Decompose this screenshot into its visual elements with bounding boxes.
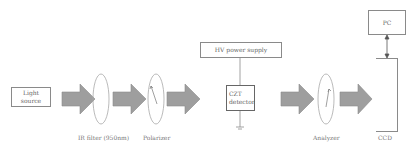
ccd-label: CCD (378, 134, 392, 141)
light-source-label-1: Light (23, 89, 39, 97)
polarizer-axis-icon (151, 86, 157, 104)
analyzer-axis-icon (326, 89, 329, 107)
czt-detector-box: CZT detector (226, 85, 255, 111)
analyzer-lens-icon (318, 74, 334, 124)
czt-detector-label-1: CZT (229, 90, 242, 98)
pc-box: PC (368, 10, 406, 35)
polarizer-label: Polarizer (143, 134, 170, 141)
czt-detector-label-2: detector (229, 98, 255, 106)
light-source-box: Light source (11, 87, 51, 107)
arrow-analyzer-to-ccd (340, 84, 372, 114)
hv-power-supply-label: HV power supply (215, 46, 267, 54)
ccd-box (376, 58, 398, 132)
diagram-graphics (0, 0, 418, 151)
optical-setup-diagram: Light source IR filter (950nm) Polarizer… (0, 0, 418, 151)
arrow-irfilter-to-polarizer (113, 84, 146, 114)
light-source-label-2: source (21, 97, 41, 105)
arrow-detector-to-analyzer (281, 84, 314, 114)
arrow-light-to-irfilter (62, 84, 95, 114)
pc-label: PC (383, 19, 392, 27)
ir-filter-label: IR filter (950nm) (78, 134, 129, 141)
analyzer-label: Analyzer (313, 134, 340, 141)
arrow-polarizer-to-detector (167, 84, 200, 114)
hv-power-supply-box: HV power supply (200, 42, 282, 58)
polarizer-lens-icon (148, 74, 164, 124)
